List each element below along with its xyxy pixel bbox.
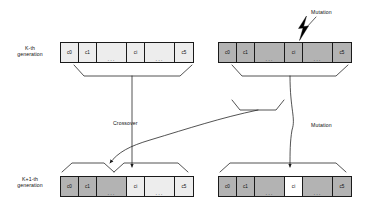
gene-cell[interactable]: c0 <box>219 43 237 62</box>
gene-cell[interactable]: c5 <box>333 177 351 196</box>
gene-cell[interactable]: ... <box>145 177 175 196</box>
gene-label: c0 <box>67 50 72 55</box>
gene-cell[interactable]: c0 <box>61 43 79 62</box>
crossover-curve <box>110 110 258 163</box>
gene-cell[interactable]: ... <box>145 43 175 62</box>
bracket-child-a-left <box>62 163 114 172</box>
gene-cell[interactable]: c1 <box>237 177 255 196</box>
gene-cell[interactable]: c5 <box>175 177 193 196</box>
gene-cell[interactable]: ... <box>303 177 333 196</box>
mutation-mid-label: Mutation <box>311 122 332 128</box>
gene-label: c1 <box>85 184 90 189</box>
gene-cell[interactable]: ... <box>255 43 285 62</box>
gene-cell[interactable]: ci <box>127 43 145 62</box>
gene-label: c1 <box>85 50 90 55</box>
gene-label: c1 <box>243 50 248 55</box>
gene-cell[interactable]: ci <box>127 177 145 196</box>
gene-cell[interactable]: c1 <box>237 43 255 62</box>
chromosome-parent-a[interactable]: c0c1...ci...c5 <box>60 42 194 63</box>
gene-cell[interactable]: ... <box>303 43 333 62</box>
row-label-line2: generation <box>2 182 58 188</box>
bracket-crossover-source <box>232 100 284 110</box>
gene-cell[interactable]: ... <box>97 43 127 62</box>
bracket-child-a-right <box>114 163 188 172</box>
gene-cell[interactable]: c1 <box>79 43 97 62</box>
bracket-parent-a <box>74 65 192 76</box>
gene-label: ci <box>134 184 138 189</box>
gene-cell[interactable]: ci <box>285 43 303 62</box>
gene-label: c5 <box>181 50 186 55</box>
gene-cell[interactable]: c0 <box>219 177 237 196</box>
chromosome-child-a[interactable]: c0c1...ci...c5 <box>60 176 194 197</box>
row-label-k-plus-1-generation: K+1-th generation <box>2 176 58 189</box>
gene-label: c5 <box>339 184 344 189</box>
chromosome-child-b[interactable]: c0c1...ci...c5 <box>218 176 352 197</box>
gene-label: c0 <box>67 184 72 189</box>
gene-ellipsis: ... <box>97 191 126 195</box>
gene-label: ci <box>292 50 296 55</box>
gene-label: c5 <box>181 184 186 189</box>
lightning-bolt-icon <box>299 16 309 41</box>
stem-parent-b-mutation <box>290 76 293 167</box>
mutation-pointer-line <box>306 17 316 28</box>
row-label-k-generation: K-th generation <box>4 45 56 58</box>
crossover-label: Crossover <box>113 120 138 126</box>
gene-cell[interactable]: ... <box>97 177 127 196</box>
gene-label: c0 <box>225 50 230 55</box>
gene-ellipsis: ... <box>145 191 174 195</box>
diagram-canvas: K-th generation c0c1...ci...c5 c0c1...ci… <box>0 0 384 215</box>
gene-cell[interactable]: c0 <box>61 177 79 196</box>
gene-label: c5 <box>339 50 344 55</box>
gene-label: c1 <box>243 184 248 189</box>
gene-ellipsis: ... <box>303 57 332 61</box>
bracket-child-b <box>220 163 346 172</box>
gene-cell[interactable]: c5 <box>333 43 351 62</box>
bracket-parent-b <box>232 65 348 76</box>
gene-label: ci <box>292 184 296 189</box>
gene-ellipsis: ... <box>255 191 284 195</box>
gene-cell[interactable]: c5 <box>175 43 193 62</box>
gene-label: c0 <box>225 184 230 189</box>
chromosome-parent-b[interactable]: c0c1...ci...c5 <box>218 42 352 63</box>
gene-label: ci <box>134 50 138 55</box>
row-label-line2: generation <box>4 51 56 57</box>
gene-ellipsis: ... <box>303 191 332 195</box>
gene-ellipsis: ... <box>145 57 174 61</box>
gene-cell[interactable]: c1 <box>79 177 97 196</box>
gene-cell[interactable]: ... <box>255 177 285 196</box>
gene-cell[interactable]: ci <box>285 177 303 196</box>
mutation-top-label: Mutation <box>311 9 332 15</box>
gene-ellipsis: ... <box>97 57 126 61</box>
gene-ellipsis: ... <box>255 57 284 61</box>
